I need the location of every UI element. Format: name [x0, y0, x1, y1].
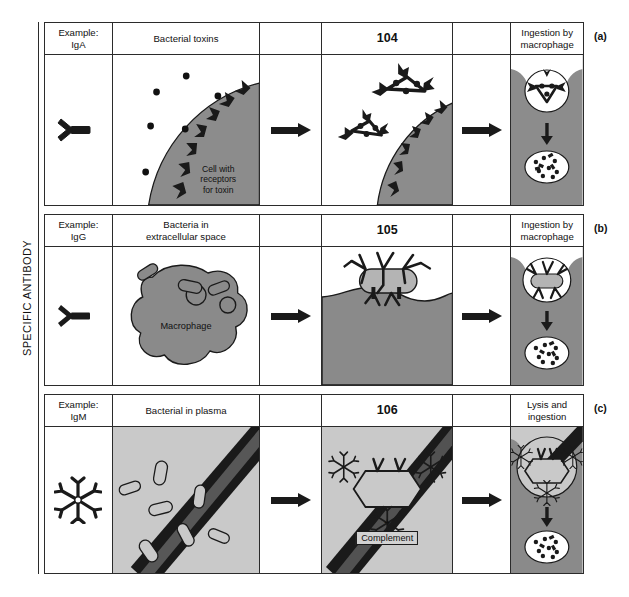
- row-a-example-line2: IgA: [58, 39, 98, 50]
- row-a-iga: Example: IgA Bacterial toxins 104 Ingest…: [44, 22, 584, 206]
- row-b-scene-opsonized: [322, 247, 454, 385]
- row-c-arrow2-header: [453, 395, 511, 426]
- row-b-arrow-1: [260, 247, 322, 385]
- row-c-plus-sign: +: [384, 517, 390, 528]
- arrow-right-icon: [271, 123, 311, 137]
- row-c-arrow-1: [260, 427, 322, 573]
- row-c-complement-box: Complement: [356, 531, 418, 545]
- row-b-scene2-art: [322, 247, 453, 385]
- row-c-example-line2: IgM: [58, 411, 98, 422]
- row-c-igm: Example: IgM Bacterial in plasma 106 Lys…: [44, 394, 584, 574]
- row-a-stage1-header: Bacterial toxins: [113, 23, 260, 54]
- row-a-example-header: Example: IgA: [45, 23, 113, 54]
- row-a-scene1-art: [113, 55, 259, 205]
- row-c-stage3-header: Lysis and ingestion: [511, 395, 583, 426]
- row-b-example-line2: IgG: [58, 231, 98, 242]
- row-a-stage3-line1: Ingestion by: [520, 27, 573, 38]
- row-b-tag: (b): [594, 222, 607, 234]
- row-c-figure-number: 106: [322, 395, 454, 426]
- row-b-scene3-art: [511, 247, 583, 385]
- row-b-body: Macrophage: [45, 247, 583, 385]
- row-c-scene-lysis: [511, 427, 583, 573]
- row-b-scene-ingestion: [511, 247, 583, 385]
- row-a-scene-toxins: Cell with receptors for toxin: [113, 55, 260, 205]
- arrow-right-icon: [462, 493, 502, 507]
- row-b-stage3-line2: macrophage: [520, 231, 573, 242]
- row-a-stage3-header: Ingestion by macrophage: [511, 23, 583, 54]
- row-c-arrow-2: [453, 427, 511, 573]
- row-b-arrow-2: [453, 247, 511, 385]
- row-b-stage3-header: Ingestion by macrophage: [511, 215, 583, 246]
- row-c-body: + Complement: [45, 427, 583, 573]
- row-c-scene1-art: [113, 427, 259, 573]
- arrow-right-icon: [271, 309, 311, 323]
- igA-monomer-icon: [55, 107, 101, 153]
- row-a-tag: (a): [594, 30, 607, 42]
- row-c-scene3-art: [511, 427, 583, 573]
- row-a-body: Cell with receptors for toxin: [45, 55, 583, 205]
- igM-pentamer-icon: [54, 476, 102, 524]
- row-b-scene1-art: [113, 247, 259, 385]
- row-a-figure-number: 104: [322, 23, 454, 54]
- row-a-antibody-cell: [45, 55, 113, 205]
- row-a-arrow1-header: [260, 23, 322, 54]
- row-c-scene-plasma: [113, 427, 260, 573]
- row-a-stage3-line2: macrophage: [520, 39, 573, 50]
- row-c-header: Example: IgM Bacterial in plasma 106 Lys…: [45, 395, 583, 427]
- row-c-arrow1-header: [260, 395, 322, 426]
- row-b-figure-number: 105: [322, 215, 454, 246]
- row-a-arrow2-header: [453, 23, 511, 54]
- row-b-example-header: Example: IgG: [45, 215, 113, 246]
- row-c-stage1-header: Bacterial in plasma: [113, 395, 260, 426]
- immunology-figure: SPECIFIC ANTIBODY Example: IgA Bacterial…: [0, 0, 629, 597]
- row-c-scene2-art: [322, 427, 453, 573]
- row-b-arrow2-header: [453, 215, 511, 246]
- row-b-stage3-line1: Ingestion by: [520, 219, 573, 230]
- arrow-right-icon: [462, 123, 502, 137]
- arrow-right-icon: [462, 309, 502, 323]
- row-c-tag: (c): [594, 402, 607, 414]
- row-b-stage1-header: Bacteria in extracellular space: [113, 215, 260, 246]
- row-b-header: Example: IgG Bacteria in extracellular s…: [45, 215, 583, 247]
- row-b-example-line1: Example:: [58, 219, 98, 230]
- row-c-example-line1: Example:: [58, 399, 98, 410]
- arrow-right-icon: [271, 493, 311, 507]
- row-b-stage1-line1: Bacteria in: [146, 219, 226, 230]
- row-a-header: Example: IgA Bacterial toxins 104 Ingest…: [45, 23, 583, 55]
- axis-label-container: SPECIFIC ANTIBODY: [14, 18, 40, 578]
- row-b-scene-macrophage: Macrophage: [113, 247, 260, 385]
- row-a-arrow-2: [453, 55, 511, 205]
- row-c-example-header: Example: IgM: [45, 395, 113, 426]
- row-b-arrow1-header: [260, 215, 322, 246]
- igG-monomer-icon: [55, 293, 101, 339]
- row-a-scene-ingestion: [511, 55, 583, 205]
- row-a-scene2-art: [322, 55, 453, 205]
- row-c-scene-complement: + Complement: [322, 427, 454, 573]
- row-b-antibody-cell: [45, 247, 113, 385]
- row-a-example-line1: Example:: [58, 27, 98, 38]
- row-a-arrow-1: [260, 55, 322, 205]
- row-a-scene3-art: [511, 55, 583, 205]
- row-a-scene-complexes: [322, 55, 454, 205]
- specific-antibody-axis-label: SPECIFIC ANTIBODY: [21, 240, 33, 356]
- row-c-antibody-cell: [45, 427, 113, 573]
- row-b-igg: Example: IgG Bacteria in extracellular s…: [44, 214, 584, 386]
- row-b-stage1-line2: extracellular space: [146, 231, 226, 242]
